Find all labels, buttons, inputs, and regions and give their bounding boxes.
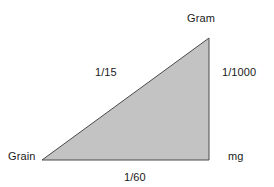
triangle-shape bbox=[42, 38, 209, 160]
edge-label-base-factor: 1/60 bbox=[124, 171, 146, 183]
vertex-label-grain: Grain bbox=[8, 150, 35, 162]
edge-label-hypotenuse-factor: 1/15 bbox=[95, 66, 117, 78]
vertex-label-gram: Gram bbox=[187, 12, 215, 24]
conversion-triangle-figure: Gram 1/1000 mg Grain 1/15 1/60 bbox=[0, 0, 274, 187]
vertex-label-mg: mg bbox=[228, 150, 243, 162]
edge-label-vertical-factor: 1/1000 bbox=[222, 66, 256, 78]
